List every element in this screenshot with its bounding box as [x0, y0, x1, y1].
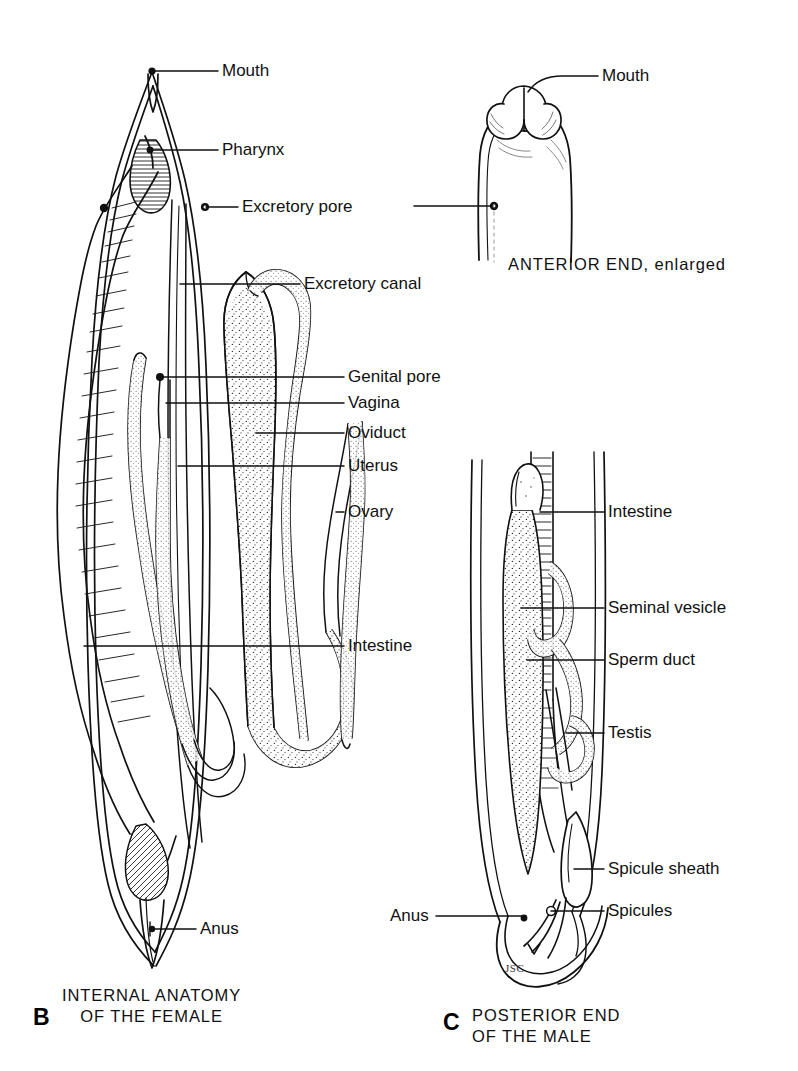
caption-anterior-end: ANTERIOR END, enlarged — [508, 254, 726, 275]
label-ovary: Ovary — [348, 503, 393, 520]
label-excretory-pore: Excretory pore — [242, 198, 353, 215]
artist-signature: JSC — [505, 962, 524, 974]
label-genital-pore: Genital pore — [348, 368, 441, 385]
caption-male-line2: OF THE MALE — [472, 1026, 620, 1047]
label-sperm-duct: Sperm duct — [608, 651, 695, 668]
label-mouth-anterior: Mouth — [602, 67, 649, 84]
caption-female-line1: INTERNAL ANATOMY — [62, 985, 241, 1006]
label-seminal-vesicle: Seminal vesicle — [608, 599, 726, 616]
label-testis: Testis — [608, 724, 651, 741]
label-anus-male: Anus — [390, 907, 429, 924]
label-pharynx: Pharynx — [222, 141, 284, 158]
caption-female: INTERNAL ANATOMY OF THE FEMALE — [62, 985, 241, 1026]
label-vagina: Vagina — [348, 394, 400, 411]
label-excretory-canal: Excretory canal — [304, 275, 421, 292]
label-oviduct: Oviduct — [348, 424, 406, 441]
caption-male-line1: POSTERIOR END — [472, 1005, 620, 1026]
label-mouth-female: Mouth — [222, 62, 269, 79]
label-uterus: Uterus — [348, 457, 398, 474]
label-intestine-male: Intestine — [608, 503, 672, 520]
label-intestine-female: Intestine — [348, 637, 412, 654]
label-spicule-sheath: Spicule sheath — [608, 860, 720, 877]
caption-female-line2: OF THE FEMALE — [62, 1006, 241, 1027]
caption-male: POSTERIOR END OF THE MALE — [472, 1005, 620, 1046]
label-anus-female: Anus — [200, 920, 239, 937]
panel-letter-c: C — [443, 1009, 460, 1036]
anatomy-figure: Mouth Pharynx Excretory pore Excretory c… — [0, 0, 798, 1071]
label-spicules: Spicules — [608, 902, 672, 919]
panel-letter-b: B — [33, 1004, 50, 1031]
